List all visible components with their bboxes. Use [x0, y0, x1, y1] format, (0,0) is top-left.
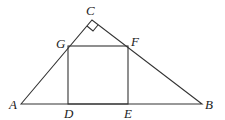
triangle-abc: [21, 20, 202, 104]
label-e: E: [123, 106, 132, 120]
label-b: B: [205, 97, 213, 112]
rectangle-defg: [68, 46, 128, 104]
right-angle-marker: [87, 25, 98, 31]
geometry-diagram: C G F A B D E: [0, 0, 225, 120]
label-g: G: [56, 36, 66, 51]
label-d: D: [63, 106, 74, 120]
label-c: C: [86, 3, 95, 18]
label-a: A: [8, 97, 17, 112]
label-f: F: [130, 34, 140, 49]
